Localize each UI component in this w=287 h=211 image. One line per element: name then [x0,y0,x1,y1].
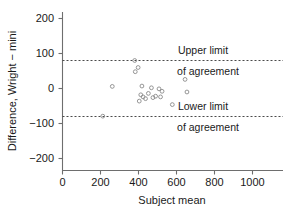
data-point [140,84,144,88]
upper-limit-label-line1: Upper limit [178,44,228,56]
lower-limit-label-line2: of agreement [177,121,239,133]
data-point [150,86,154,90]
x-tick-label-200: 200 [91,176,109,188]
y-tick-label-200: 200 [36,12,54,24]
data-point [136,66,140,70]
data-point [159,95,163,99]
upper-limit-label-line2: of agreement [177,65,239,77]
y-tick-label-neg200: −200 [29,152,54,164]
x-tick-label-0: 0 [59,176,65,188]
y-axis-ticks [59,19,63,159]
lower-limit-label-line1: Lower limit [178,100,228,112]
data-point [185,90,189,94]
y-tick-label-0: 0 [48,82,54,94]
y-tick-label-neg100: −100 [29,117,54,129]
data-point [110,85,114,89]
y-axis-title: Difference, Wright − mini [6,31,18,151]
axis-spines [63,12,284,171]
x-axis-ticks [63,171,253,175]
data-point [133,70,137,74]
chart-canvas: 200 100 0 −100 −200 0 200 400 600 800 10… [0,0,287,211]
data-point [183,78,187,82]
data-point [137,99,141,103]
data-point [146,92,150,96]
x-tick-label-1000: 1000 [240,176,264,188]
data-point [160,89,164,93]
scatter-points-layer [101,59,189,118]
x-tick-label-600: 600 [167,176,185,188]
x-axis-title: Subject mean [138,194,205,206]
bland-altman-chart: 200 100 0 −100 −200 0 200 400 600 800 10… [0,0,287,211]
y-tick-label-100: 100 [36,47,54,59]
x-tick-label-800: 800 [205,176,223,188]
x-tick-label-400: 400 [129,176,147,188]
data-point [170,103,174,107]
